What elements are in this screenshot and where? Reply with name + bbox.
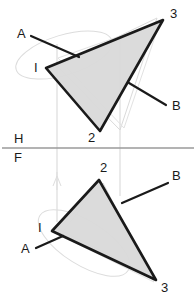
vertex-label-3-frontal: 3 (161, 280, 168, 295)
technical-drawing-canvas: I 3 2 A B I 2 3 A B H F (0, 0, 196, 298)
vertex-label-2-frontal: 2 (100, 160, 107, 175)
triangle-horizontal-view (46, 20, 163, 131)
vertex-label-1-horizontal: I (34, 60, 38, 75)
line-label-b-frontal: B (172, 168, 181, 183)
line-label-a-frontal: A (21, 241, 30, 256)
line-label-a-horizontal: A (17, 26, 26, 41)
line-label-b-horizontal: B (172, 98, 181, 113)
vertex-label-3-horizontal: 3 (170, 6, 177, 21)
leader-line-b-horizontal (129, 83, 166, 105)
vertex-label-2-horizontal: 2 (88, 130, 95, 145)
leader-line-a-horizontal (31, 36, 79, 57)
projection-drawing: I 3 2 A B I 2 3 A B H F (0, 0, 196, 298)
construction-arrow-icon (53, 172, 61, 190)
horizontal-view-group: I 3 2 A B (17, 6, 181, 145)
leader-line-a-frontal (36, 236, 63, 248)
plane-label-h: H (14, 131, 23, 146)
leader-line-b-frontal (122, 183, 168, 203)
vertex-label-1-frontal: I (38, 220, 42, 235)
plane-label-f: F (14, 150, 22, 165)
